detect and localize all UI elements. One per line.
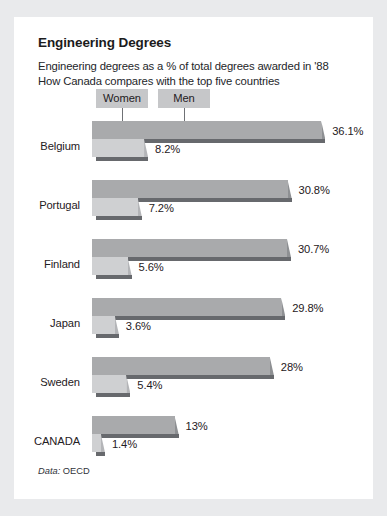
bar-end-cap [288,180,292,198]
bar-chart-plot: Belgium36.1%8.2%Portugal30.8%7.2%Finland… [14,17,373,499]
bar-women [92,139,144,157]
bar-end-cap [287,239,291,257]
category-label: Sweden [14,376,80,388]
bar-end-cap [281,298,285,316]
bar-value-label: 28% [281,361,303,373]
bar-shadow [96,334,119,338]
bar-women [92,434,101,452]
bar-value-label: 8.2% [155,143,180,155]
bar-value-label: 3.6% [126,320,151,332]
bar-body [92,121,321,139]
bar-body [92,434,101,452]
bar-value-label: 36.1% [332,125,363,137]
bar-body [92,239,287,257]
bar-shadow [96,434,179,438]
bar-value-label: 30.8% [299,184,330,196]
bar-body [92,375,126,393]
bar-group: CANADA13%1.4% [14,416,373,464]
bar-end-cap [175,416,179,434]
bar-value-label: 30.7% [298,243,329,255]
bar-value-label: 5.6% [139,261,164,273]
bar-men [92,239,287,257]
bar-body [92,139,144,157]
bar-group: Belgium36.1%8.2% [14,121,373,169]
bar-body [92,316,115,334]
bar-men [92,121,321,139]
bar-men [92,357,270,375]
category-label: Japan [14,317,80,329]
chart-card: Engineering Degrees Engineering degrees … [14,17,373,499]
bar-women [92,316,115,334]
bar-body [92,298,281,316]
bar-group: Japan29.8%3.6% [14,298,373,346]
source-value: OECD [63,466,90,476]
category-label: Portugal [14,199,80,211]
bar-value-label: 7.2% [149,202,174,214]
bar-shadow [96,275,132,279]
bar-body [92,257,128,275]
bar-body [92,416,175,434]
bar-body [92,357,270,375]
bar-shadow [96,216,142,220]
bar-end-cap [321,121,325,139]
bar-value-label: 1.4% [112,438,137,450]
bar-value-label: 13% [186,420,208,432]
bar-women [92,257,128,275]
category-label: Belgium [14,140,80,152]
bar-body [92,198,138,216]
category-label: CANADA [14,435,80,447]
bar-group: Finland30.7%5.6% [14,239,373,287]
bar-men [92,180,288,198]
bar-shadow [96,316,285,320]
bar-shadow [96,393,130,397]
bar-value-label: 5.4% [137,379,162,391]
bar-men [92,298,281,316]
bar-body [92,180,288,198]
source-note: Data: OECD [38,466,90,476]
category-label: Finland [14,258,80,270]
bar-group: Portugal30.8%7.2% [14,180,373,228]
bar-group: Sweden28%5.4% [14,357,373,405]
bar-women [92,375,126,393]
bar-shadow [96,157,148,161]
bar-men [92,416,175,434]
bar-value-label: 29.8% [292,302,323,314]
bar-women [92,198,138,216]
bar-shadow [96,452,105,456]
source-key: Data: [38,466,60,476]
bar-end-cap [270,357,274,375]
